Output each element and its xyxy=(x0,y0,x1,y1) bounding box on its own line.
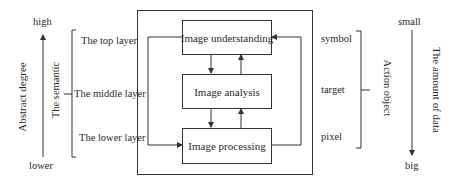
data-big-label: big xyxy=(405,161,418,172)
abstract-degree-title: Abstract degree xyxy=(17,62,28,131)
feedback-right xyxy=(271,37,301,145)
action-item-target: target xyxy=(321,85,345,96)
abstract-lower-label: lower xyxy=(29,161,53,172)
semantic-layer-middle: The middle layer xyxy=(74,89,146,100)
action-object-bracket xyxy=(356,31,361,148)
data-amount-title: The amount of data xyxy=(431,47,442,133)
semantic-title: The semantic xyxy=(51,62,62,118)
image-analysis-box: Image analysis xyxy=(182,74,272,109)
image-understanding-box: Image understanding xyxy=(182,20,272,55)
image-processing-box: Image processing xyxy=(182,128,272,164)
semantic-layer-top: The top layer xyxy=(81,36,137,47)
abstract-high-label: high xyxy=(33,17,52,28)
action-object-title: Action object xyxy=(382,60,393,117)
action-item-symbol: symbol xyxy=(321,34,352,45)
data-small-label: small xyxy=(398,17,421,28)
feedback-left xyxy=(148,37,183,145)
action-item-pixel: pixel xyxy=(321,132,342,143)
semantic-layer-lower: The lower layer xyxy=(79,133,145,144)
